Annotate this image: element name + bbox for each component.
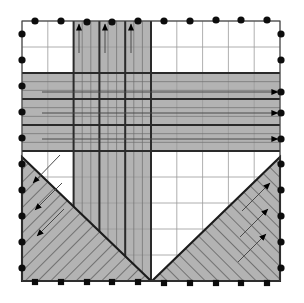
node-marker-circle-left [18, 56, 25, 63]
node-marker-square-bottom [213, 280, 219, 286]
node-marker-circle-right [277, 135, 284, 142]
node-marker-circle-right [277, 56, 284, 63]
node-marker-square-bottom [135, 279, 141, 285]
node-marker-circle-top [134, 17, 141, 24]
node-marker-circle-top [186, 17, 193, 24]
diagram-canvas [0, 0, 304, 303]
node-marker-circle-left [18, 264, 25, 271]
load-arrow-down-left [33, 155, 60, 183]
node-marker-circle-left [18, 238, 25, 245]
node-marker-circle-right [277, 264, 284, 271]
node-marker-circle-right [277, 30, 284, 37]
node-marker-circle-top [31, 17, 38, 24]
right-shear-triangle [152, 157, 280, 281]
node-marker-square-bottom [84, 279, 90, 285]
node-marker-circle-top [237, 16, 244, 23]
node-marker-circle-left [18, 30, 25, 37]
node-marker-circle-top [108, 18, 115, 25]
node-marker-square-bottom [161, 280, 167, 286]
node-marker-circle-top [263, 16, 270, 23]
node-marker-circle-left [18, 212, 25, 219]
node-marker-circle-top [212, 16, 219, 23]
node-marker-circle-top [57, 17, 64, 24]
mesh-diagram-svg [0, 0, 304, 303]
node-marker-circle-right [277, 160, 284, 167]
node-marker-circle-right [277, 88, 284, 95]
node-marker-circle-top [160, 17, 167, 24]
node-marker-circle-left [18, 82, 25, 89]
node-marker-square-bottom [109, 279, 115, 285]
node-marker-square-bottom [264, 280, 270, 286]
node-marker-square-bottom [238, 280, 244, 286]
node-marker-square-bottom [58, 279, 64, 285]
node-marker-circle-right [277, 212, 284, 219]
node-marker-circle-right [277, 186, 284, 193]
node-marker-circle-left [18, 186, 25, 193]
node-marker-circle-right [277, 238, 284, 245]
node-marker-circle-top [83, 18, 90, 25]
node-marker-circle-left [18, 134, 25, 141]
node-marker-circle-right [277, 109, 284, 116]
node-marker-circle-left [18, 160, 25, 167]
node-marker-circle-left [18, 108, 25, 115]
node-marker-square-bottom [187, 280, 193, 286]
node-marker-square-bottom [32, 279, 38, 285]
